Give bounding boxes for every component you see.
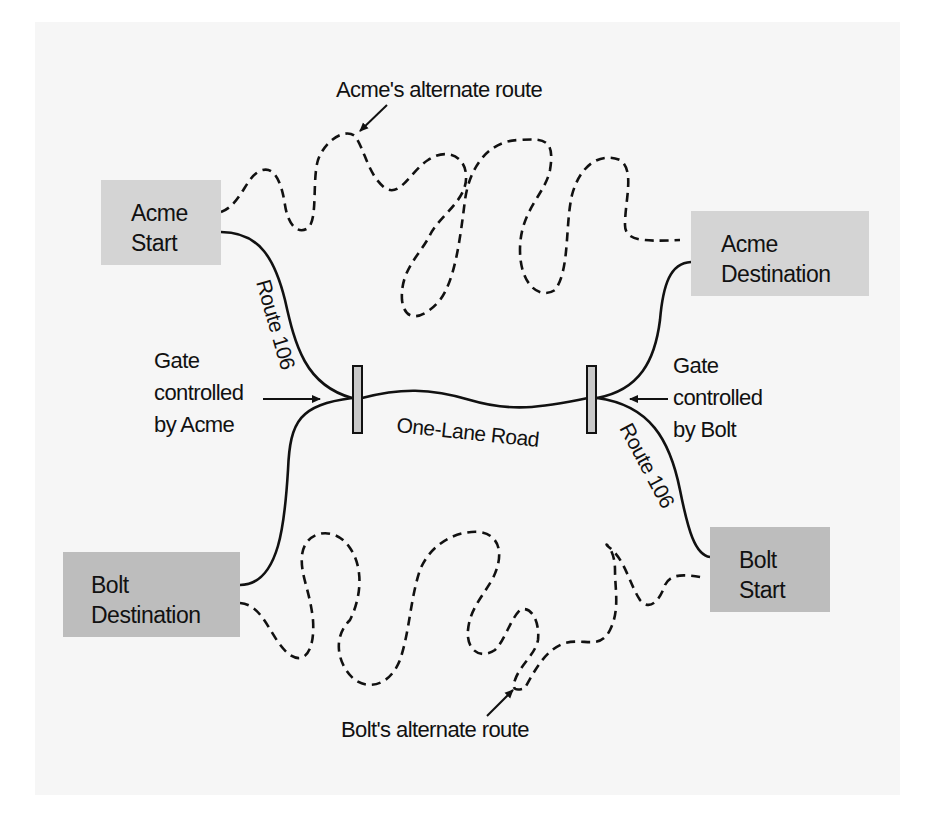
node-bolt-destination: Bolt Destination	[63, 552, 240, 637]
acme-alternate-route-label: Acme's alternate route	[336, 74, 542, 106]
bolt-alternate-route-label: Bolt's alternate route	[341, 714, 529, 746]
gate-bolt-label-line1: Gate	[673, 350, 762, 382]
node-bolt-destination-line1: Bolt	[91, 570, 240, 600]
node-acme-destination-line1: Acme	[721, 229, 869, 259]
node-acme-destination: Acme Destination	[691, 211, 869, 296]
node-bolt-destination-line2: Destination	[91, 600, 240, 630]
gate-bolt	[587, 366, 596, 433]
node-acme-start-line2: Start	[131, 228, 221, 258]
bolt-alt-route-arrow-icon	[487, 690, 513, 716]
gate-acme	[353, 366, 362, 433]
gate-bolt-label-line3: by Bolt	[673, 414, 762, 446]
route-106-bolt-destination-path	[240, 398, 352, 585]
node-bolt-start-line2: Start	[739, 575, 830, 605]
gate-bolt-label: Gate controlled by Bolt	[673, 350, 762, 446]
node-acme-destination-line2: Destination	[721, 259, 869, 289]
gate-acme-label: Gate controlled by Acme	[154, 345, 243, 441]
one-lane-road-label: One-Lane Road	[396, 413, 541, 451]
gate-acme-label-line3: by Acme	[154, 409, 243, 441]
node-bolt-start: Bolt Start	[710, 527, 830, 612]
one-lane-road-path	[362, 391, 588, 408]
node-bolt-start-line1: Bolt	[739, 545, 830, 575]
acme-alt-route-arrow-icon	[360, 105, 387, 131]
gate-acme-label-line2: controlled	[154, 377, 243, 409]
node-acme-start: Acme Start	[101, 180, 221, 265]
acme-alternate-route-path	[221, 133, 680, 316]
road-network-diagram: Route 106 Route 106 One-Lane Road	[0, 0, 936, 823]
gate-bolt-label-line2: controlled	[673, 382, 762, 414]
gate-acme-label-line1: Gate	[154, 345, 243, 377]
route-106-right-label: Route 106	[615, 419, 679, 511]
bolt-alternate-route-path	[240, 532, 705, 690]
node-acme-start-line1: Acme	[131, 198, 221, 228]
route-106-left-label: Route 106	[252, 277, 300, 372]
